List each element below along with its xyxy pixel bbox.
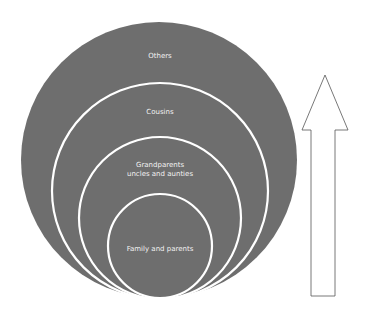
label-family: Family and parents (127, 245, 194, 254)
concentric-circles-diagram: Others Cousins Grandparents uncles and a… (0, 0, 370, 323)
label-grandparents: Grandparents (136, 161, 184, 170)
label-others: Others (148, 52, 172, 61)
diagram-canvas (0, 0, 370, 323)
label-cousins: Cousins (146, 108, 173, 117)
circle-others (21, 22, 297, 298)
label-uncles-aunties: uncles and aunties (127, 170, 193, 179)
up-arrow-icon (302, 75, 348, 296)
